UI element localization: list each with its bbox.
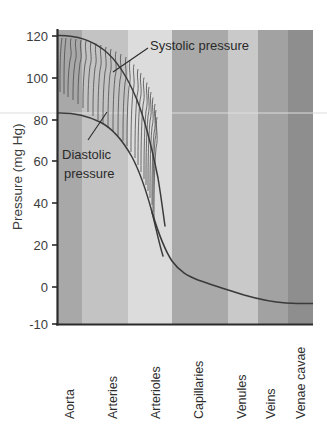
y-tick-100: 100 [26,71,48,86]
blood-pressure-chart: Systolic pressure Diastolic pressure 120… [0,0,327,427]
diastolic-annotation-label-line1: Diastolic [62,147,112,162]
diastolic-annotation-label-line2: pressure [64,166,115,181]
y-tick-80: 80 [34,113,48,128]
x-label-arteries: Arteries [106,376,120,419]
y-tick-20: 20 [34,238,48,253]
x-label-venules: Venules [235,375,249,419]
y-tick-120: 120 [26,29,48,44]
chart-svg: Systolic pressure Diastolic pressure 120… [0,0,327,427]
y-tick-60: 60 [34,154,48,169]
band-venules [228,30,258,325]
y-tick-0: 0 [41,280,48,295]
x-label-capillaries: Capillaries [192,361,206,419]
band-veins [258,30,288,325]
systolic-annotation-label: Systolic pressure [150,38,249,53]
y-tick-neg10: -10 [29,317,48,332]
band-venae-cavae [288,30,313,325]
y-tick-40: 40 [34,196,48,211]
x-label-arterioles: Arterioles [149,366,163,419]
y-axis-title: Pressure (mg Hg) [10,123,25,230]
x-label-aorta: Aorta [63,389,77,419]
x-label-venae-cavae: Venae cavae [294,347,308,419]
x-label-veins: Veins [264,388,278,419]
